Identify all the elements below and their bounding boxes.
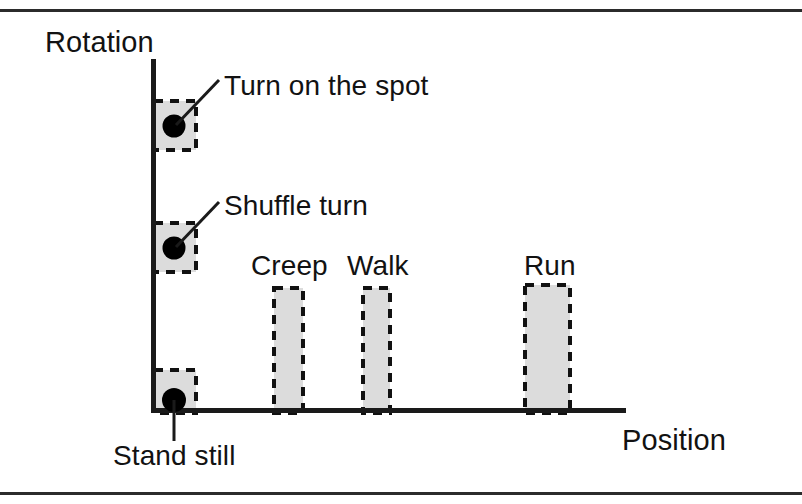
state-label-run: Run (524, 250, 576, 282)
state-region-creep (274, 288, 303, 413)
state-label-turn-on-the-spot: Turn on the spot (224, 70, 428, 102)
y-axis-label: Rotation (45, 26, 154, 59)
state-label-creep: Creep (251, 250, 328, 282)
state-region-run (525, 285, 570, 413)
x-axis-label: Position (622, 424, 726, 457)
state-label-shuffle-turn: Shuffle turn (224, 190, 368, 222)
figure-frame: Rotation Position Turn on the spot Shuff… (0, 0, 802, 504)
state-region-walk (363, 288, 390, 413)
state-label-stand-still: Stand still (113, 440, 236, 472)
state-label-walk: Walk (347, 250, 409, 282)
